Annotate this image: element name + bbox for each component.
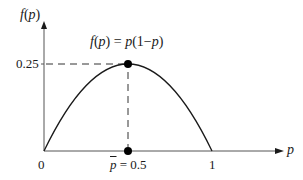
pbar-point [124, 147, 132, 155]
max-point [124, 60, 132, 68]
function-label-open: (1− [132, 34, 152, 49]
function-label-close: ) [159, 34, 164, 49]
x-tick-label-1: 1 [209, 158, 216, 171]
y-axis-label: f(p) [20, 8, 40, 22]
x-tick-label-mid: p = 0.5 [110, 158, 147, 171]
chart-canvas [0, 0, 303, 180]
y-axis-label-arg: (p) [24, 7, 40, 22]
y-axis-arrow-icon [41, 21, 47, 29]
x-tick-label-0: 0 [38, 158, 45, 171]
x-tick-label-mid-rest: = 0.5 [117, 157, 147, 172]
x-axis-arrow-icon [275, 148, 284, 154]
function-label-p2: p [152, 34, 159, 49]
function-label: f(p) = p(1−p) [90, 35, 163, 49]
x-axis-label: p [287, 143, 294, 157]
y-tick-label-025: 0.25 [16, 57, 39, 70]
function-label-eq: = [110, 34, 125, 49]
